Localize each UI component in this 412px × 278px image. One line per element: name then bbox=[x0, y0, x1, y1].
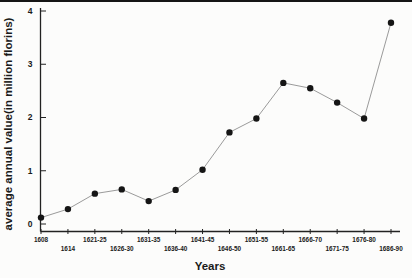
page-top-rule bbox=[0, 0, 412, 2]
data-point bbox=[226, 129, 232, 135]
x-tick-label: 1614 bbox=[61, 245, 76, 252]
data-point bbox=[199, 166, 205, 172]
y-tick-label: 3 bbox=[28, 59, 33, 69]
data-point bbox=[388, 20, 394, 26]
x-tick-label: 1636-40 bbox=[164, 245, 188, 252]
line-chart-figure: 01234160816141621-251626-301631-351636-4… bbox=[0, 0, 412, 278]
y-tick-label: 4 bbox=[28, 6, 33, 16]
x-tick-label: 1676-80 bbox=[352, 236, 376, 243]
x-tick-label: 1646-50 bbox=[218, 245, 242, 252]
x-tick-label: 1661-65 bbox=[272, 245, 296, 252]
data-series-line bbox=[41, 23, 391, 218]
x-tick-label: 1626-30 bbox=[110, 245, 134, 252]
x-tick-label: 1671-75 bbox=[325, 245, 349, 252]
data-point bbox=[361, 115, 367, 121]
data-point bbox=[172, 187, 178, 193]
y-tick-label: 1 bbox=[28, 166, 33, 176]
data-point bbox=[119, 186, 125, 192]
data-point bbox=[65, 206, 71, 212]
x-tick-label: 1608 bbox=[34, 236, 49, 243]
x-tick-label: 1631-35 bbox=[137, 236, 161, 243]
data-point bbox=[334, 99, 340, 105]
x-axis-title: Years bbox=[195, 260, 226, 272]
data-point bbox=[145, 198, 151, 204]
data-point bbox=[38, 214, 44, 220]
y-tick-label: 0 bbox=[28, 219, 33, 229]
x-tick-label: 1666-70 bbox=[298, 236, 322, 243]
data-point bbox=[307, 85, 313, 91]
y-axis-title: average annual value(in million florins) bbox=[2, 17, 14, 230]
data-point bbox=[92, 190, 98, 196]
x-tick-label: 1686-90 bbox=[379, 245, 403, 252]
x-tick-label: 1621-25 bbox=[83, 236, 107, 243]
chart-canvas: 01234160816141621-251626-301631-351636-4… bbox=[0, 0, 412, 278]
data-point bbox=[253, 115, 259, 121]
data-point bbox=[280, 80, 286, 86]
x-tick-label: 1641-45 bbox=[191, 236, 215, 243]
y-tick-label: 2 bbox=[28, 112, 33, 122]
x-tick-label: 1651-55 bbox=[245, 236, 269, 243]
